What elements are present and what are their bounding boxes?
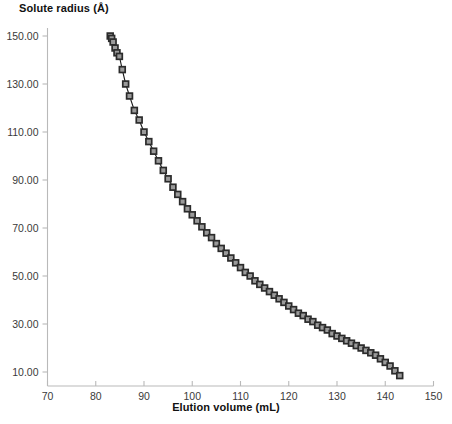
data-point-marker <box>199 224 205 230</box>
data-point-marker <box>116 54 122 60</box>
data-point-marker <box>119 67 125 73</box>
data-point-marker <box>123 81 129 87</box>
x-axis: 708090100110120130140150 <box>42 381 443 402</box>
data-point-marker <box>127 93 133 99</box>
data-point-marker <box>131 108 137 114</box>
data-point-marker <box>151 148 157 154</box>
y-tick-label: 30.00 <box>12 318 38 330</box>
series-line <box>110 36 400 376</box>
data-point-marker <box>110 39 116 45</box>
y-tick-label: 70.00 <box>12 222 38 234</box>
y-axis: 10.0030.0050.0070.0090.00110.00130.00150… <box>6 28 47 386</box>
data-point-marker <box>146 139 152 145</box>
data-point-marker <box>136 117 142 123</box>
data-point-marker <box>170 184 176 190</box>
y-tick-label: 10.00 <box>12 366 38 378</box>
data-point-marker <box>189 212 195 218</box>
data-point-marker <box>194 218 200 224</box>
data-point-marker <box>209 235 215 241</box>
data-point-marker <box>185 206 191 212</box>
data-point-marker <box>165 176 171 182</box>
y-tick-label: 130.00 <box>6 78 38 90</box>
data-point-marker <box>160 168 166 174</box>
data-series <box>107 33 402 378</box>
y-tick-label: 90.00 <box>12 174 38 186</box>
y-tick-label: 150.00 <box>6 30 38 42</box>
y-tick-label: 50.00 <box>12 270 38 282</box>
y-tick-label: 110.00 <box>7 126 38 138</box>
data-point-marker <box>180 199 186 205</box>
data-point-marker <box>397 373 403 379</box>
chart-container: Solute radius (Å) 10.0030.0050.0070.0090… <box>0 0 452 424</box>
data-point-marker <box>141 129 147 135</box>
x-axis-title: Elution volume (mL) <box>0 401 452 413</box>
data-point-marker <box>175 192 181 198</box>
plot-area: 10.0030.0050.0070.0090.00110.00130.00150… <box>0 0 452 424</box>
data-point-marker <box>156 158 162 164</box>
